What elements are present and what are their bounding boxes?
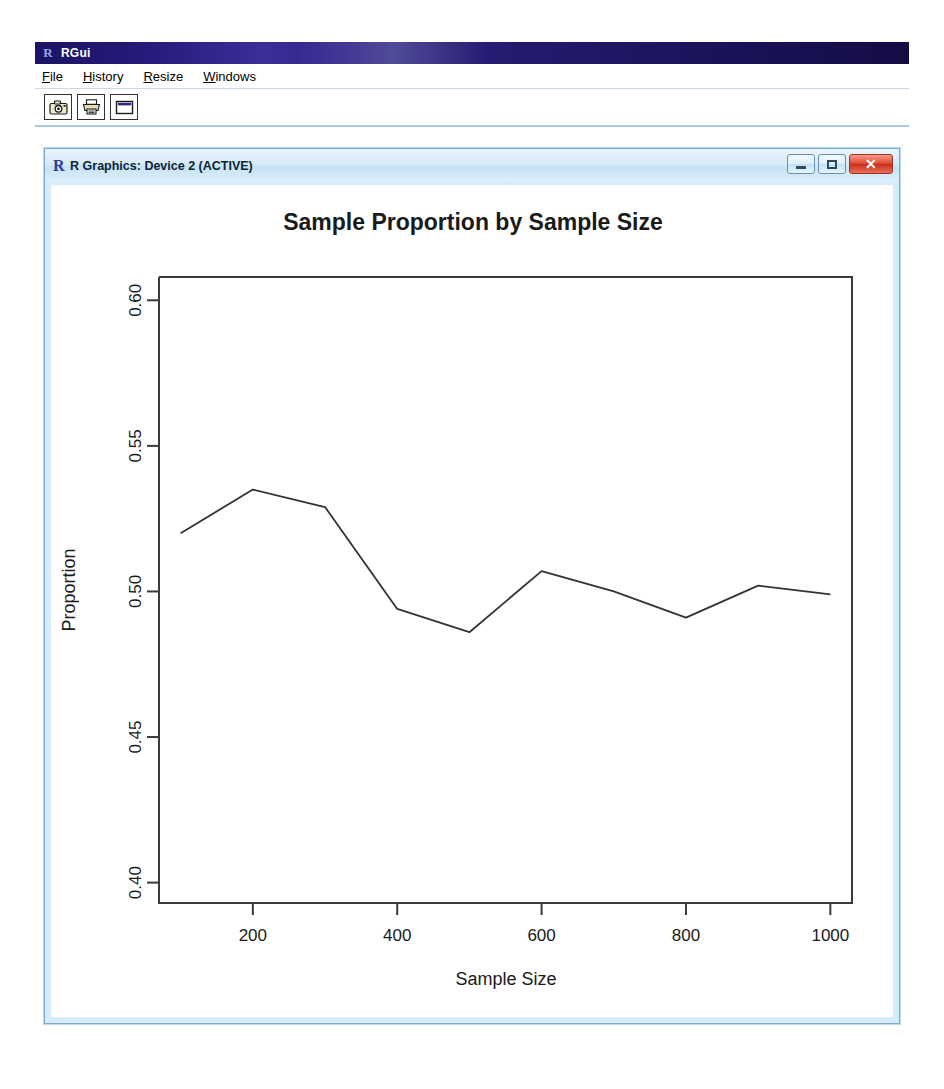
x-tick-label: 600 <box>527 926 555 945</box>
plot-canvas: Sample Proportion by Sample Size 0.400.4… <box>51 185 893 1017</box>
y-tick-label: 0.60 <box>126 284 145 317</box>
x-axis-title: Sample Size <box>455 969 556 989</box>
y-axis-ticks: 0.400.450.500.550.60 <box>126 284 159 899</box>
y-axis-title: Proportion <box>59 548 79 631</box>
y-tick-label: 0.45 <box>126 720 145 753</box>
close-icon: ✕ <box>865 157 877 171</box>
rgui-title-text: RGui <box>61 46 90 60</box>
y-tick-label: 0.55 <box>126 429 145 462</box>
menu-bar: File History Resize Windows <box>35 64 909 89</box>
x-axis-ticks: 2004006008001000 <box>239 903 850 945</box>
x-tick-label: 200 <box>239 926 267 945</box>
printer-icon <box>82 99 101 115</box>
chart-title: Sample Proportion by Sample Size <box>283 209 663 235</box>
device-title-text: R Graphics: Device 2 (ACTIVE) <box>70 159 253 173</box>
x-tick-label: 800 <box>672 926 700 945</box>
y-tick-label: 0.40 <box>126 866 145 899</box>
r-logo-icon: R <box>40 46 55 61</box>
menu-item-history[interactable]: History <box>83 69 123 84</box>
line-chart: Sample Proportion by Sample Size 0.400.4… <box>51 185 895 1019</box>
menu-item-resize[interactable]: Resize <box>143 69 183 84</box>
window-controls: ✕ <box>787 154 893 174</box>
rgui-title-bar[interactable]: R RGui <box>35 42 909 64</box>
x-tick-label: 1000 <box>811 926 849 945</box>
y-tick-label: 0.50 <box>126 575 145 608</box>
data-series-line <box>181 490 831 633</box>
print-button[interactable] <box>77 94 105 120</box>
device-title-bar[interactable]: R R Graphics: Device 2 (ACTIVE) ✕ <box>45 149 899 182</box>
maximize-icon <box>827 160 837 169</box>
new-device-button[interactable] <box>110 94 138 120</box>
window-icon <box>115 100 134 115</box>
copy-to-clipboard-button[interactable] <box>44 94 72 120</box>
minimize-icon <box>796 166 806 169</box>
close-button[interactable]: ✕ <box>849 154 893 174</box>
maximize-button[interactable] <box>818 154 846 174</box>
menu-item-windows[interactable]: Windows <box>203 69 256 84</box>
minimize-button[interactable] <box>787 154 815 174</box>
x-tick-label: 400 <box>383 926 411 945</box>
r-logo-icon: R <box>53 157 63 175</box>
menu-item-file[interactable]: File <box>42 69 63 84</box>
camera-icon <box>49 100 68 115</box>
tool-bar <box>35 89 909 127</box>
graphics-device-window: R R Graphics: Device 2 (ACTIVE) ✕ Sample… <box>44 148 900 1024</box>
